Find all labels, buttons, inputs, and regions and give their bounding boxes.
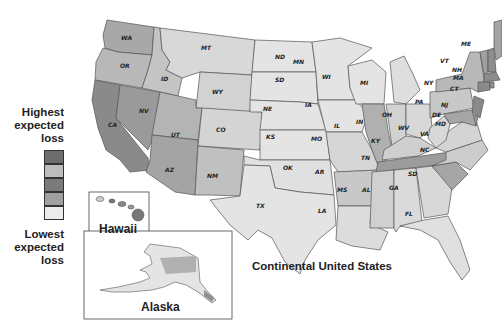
state-az xyxy=(146,135,198,195)
svg-text:UT: UT xyxy=(171,131,181,138)
svg-text:CT: CT xyxy=(450,85,459,92)
state-co xyxy=(198,108,262,150)
svg-text:WA: WA xyxy=(121,34,132,41)
map-title: Continental United States xyxy=(252,260,392,272)
state-ne xyxy=(250,100,326,130)
svg-text:MA: MA xyxy=(453,74,464,81)
state-ms xyxy=(370,170,394,228)
svg-text:IA: IA xyxy=(305,101,312,108)
state-ct xyxy=(478,82,490,92)
state-fl xyxy=(400,216,470,280)
svg-text:SD: SD xyxy=(408,170,417,177)
svg-text:KY: KY xyxy=(371,137,381,144)
expected-loss-map: WA OR CA NV ID MT WY UT CO AZ NM ND SD N… xyxy=(0,0,502,325)
svg-text:MS: MS xyxy=(337,186,347,193)
svg-text:OK: OK xyxy=(283,164,294,171)
legend-bottom-line-3: loss xyxy=(0,254,64,267)
svg-text:TX: TX xyxy=(256,202,265,209)
svg-text:NV: NV xyxy=(139,107,150,114)
legend-top-label: Highest expected loss xyxy=(0,106,64,145)
legend-swatch-5 xyxy=(44,206,64,220)
svg-text:WI: WI xyxy=(322,73,332,80)
state-ri xyxy=(490,82,494,88)
svg-text:OR: OR xyxy=(120,62,130,69)
state-nm xyxy=(195,146,244,196)
svg-text:MO: MO xyxy=(311,135,322,142)
svg-text:NH: NH xyxy=(452,66,462,73)
svg-text:FL: FL xyxy=(405,210,413,217)
svg-text:LA: LA xyxy=(318,207,327,214)
svg-text:WY: WY xyxy=(212,88,224,95)
state-ma xyxy=(484,72,500,82)
svg-text:NJ: NJ xyxy=(441,101,449,109)
svg-text:ND: ND xyxy=(275,53,285,60)
svg-text:MD: MD xyxy=(435,120,446,127)
legend-bottom-line-2: expected xyxy=(0,241,64,254)
svg-text:CO: CO xyxy=(216,126,226,133)
svg-text:NM: NM xyxy=(207,172,218,179)
legend-top-line-1: Highest xyxy=(0,106,64,119)
svg-text:NC: NC xyxy=(420,146,430,153)
svg-text:MT: MT xyxy=(201,44,212,51)
svg-text:DE: DE xyxy=(432,111,442,118)
svg-text:SD: SD xyxy=(275,76,284,83)
legend-bottom-line-1: Lowest xyxy=(0,228,64,241)
legend-swatch-1 xyxy=(44,150,64,164)
legend-swatch-3 xyxy=(44,178,64,192)
svg-text:AR: AR xyxy=(314,168,325,175)
svg-text:ME: ME xyxy=(461,40,472,47)
svg-text:GA: GA xyxy=(389,184,399,191)
legend-top-line-3: loss xyxy=(0,132,64,145)
legend-bottom-label: Lowest expected loss xyxy=(0,228,64,267)
svg-text:IN: IN xyxy=(356,118,363,125)
legend-swatch-2 xyxy=(44,164,64,178)
state-mi xyxy=(390,56,420,104)
legend-swatch-4 xyxy=(44,192,64,206)
svg-text:KS: KS xyxy=(266,133,275,140)
svg-text:ID: ID xyxy=(161,75,168,82)
svg-text:NE: NE xyxy=(263,105,273,112)
svg-text:MN: MN xyxy=(293,58,304,65)
svg-text:VA: VA xyxy=(420,130,429,137)
svg-text:OH: OH xyxy=(382,111,392,118)
hawaii-label: Hawaii xyxy=(99,222,137,236)
state-me xyxy=(494,20,502,60)
svg-text:AZ: AZ xyxy=(164,166,175,173)
svg-text:IL: IL xyxy=(334,122,340,129)
svg-text:VT: VT xyxy=(440,57,450,64)
svg-text:NY: NY xyxy=(424,79,434,86)
svg-text:WV: WV xyxy=(398,124,411,131)
state-ia xyxy=(318,100,368,132)
svg-text:AL: AL xyxy=(361,186,371,193)
svg-text:MI: MI xyxy=(360,79,369,86)
svg-text:TN: TN xyxy=(361,154,370,161)
state-mt xyxy=(160,28,255,78)
alaska-label: Alaska xyxy=(141,300,180,314)
svg-text:CA: CA xyxy=(108,121,117,128)
state-wy xyxy=(196,72,252,112)
svg-text:PA: PA xyxy=(415,98,424,105)
legend-top-line-2: expected xyxy=(0,119,64,132)
